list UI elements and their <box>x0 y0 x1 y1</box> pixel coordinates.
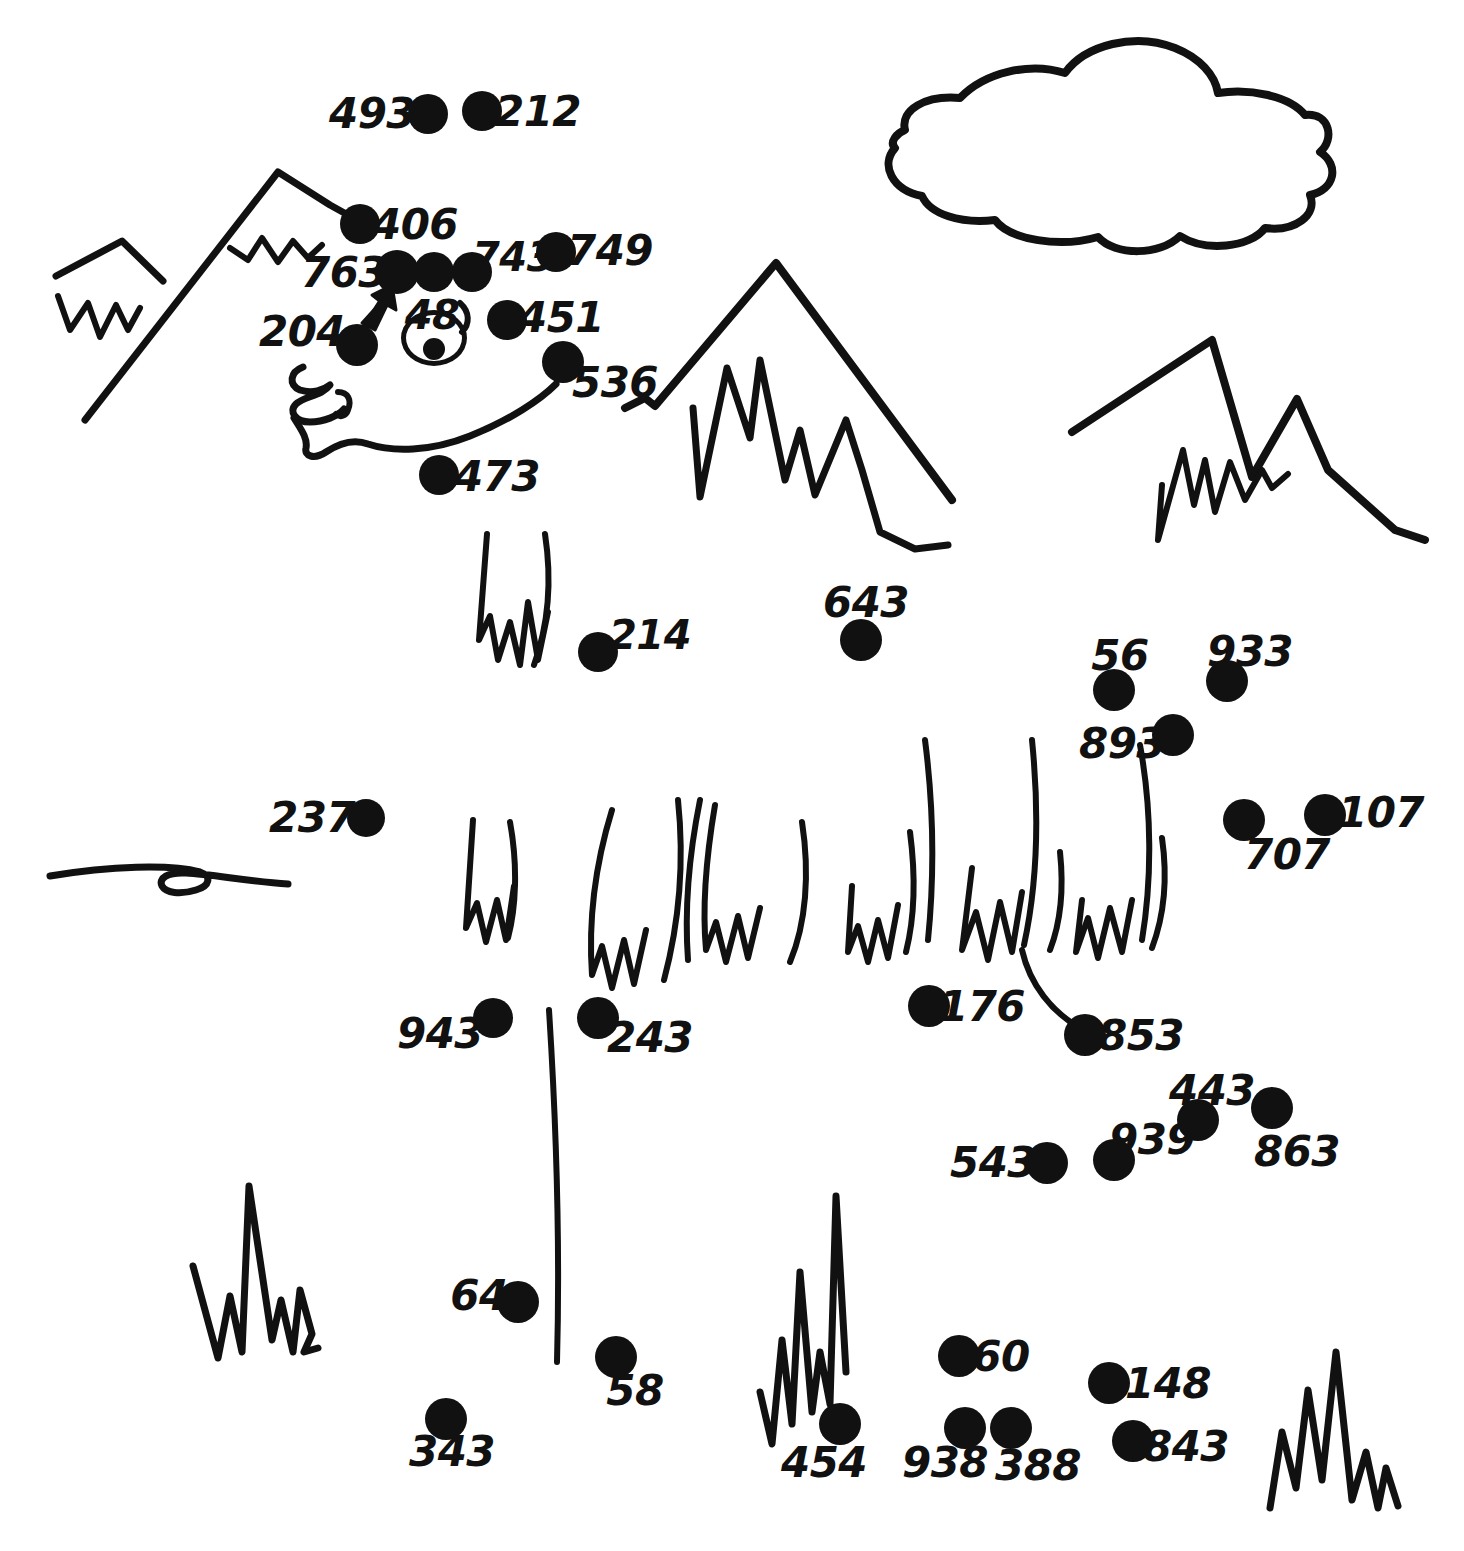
grass-tuft-mid-2 <box>466 820 515 942</box>
dot-number-label: 853 <box>1098 1015 1184 1057</box>
dot-number-label: 64 <box>450 1275 507 1317</box>
dot-marker[interactable] <box>414 252 454 292</box>
cloud-outline <box>889 41 1333 251</box>
dot-number-label: 204 <box>259 311 345 353</box>
scene-canvas: 4932124067497437634845120453647321464356… <box>0 0 1464 1551</box>
dot-number-label: 939 <box>1109 1119 1195 1161</box>
grass-tuft-mid-1 <box>479 534 548 665</box>
dot-number-label: 473 <box>454 456 540 498</box>
dot-number-label: 48 <box>405 295 460 335</box>
bird-beak <box>336 392 350 416</box>
dot-number-label: 107 <box>1338 792 1424 834</box>
mountain-right-snow <box>1158 450 1288 540</box>
dot-marker[interactable] <box>1251 1087 1293 1129</box>
dot-number-label: 707 <box>1244 834 1330 876</box>
grass-tuft-mid-6 <box>962 740 1062 960</box>
dot-number-label: 743 <box>472 237 554 277</box>
mountain-right <box>1072 340 1425 540</box>
dot-marker[interactable] <box>1088 1362 1130 1404</box>
dot-number-label: 454 <box>781 1442 867 1484</box>
dot-number-label: 212 <box>495 91 581 133</box>
grass-tuft-mid-7 <box>1076 745 1165 958</box>
dot-number-label: 237 <box>269 797 355 839</box>
dot-number-label: 536 <box>572 362 658 404</box>
dot-number-label: 943 <box>397 1013 483 1055</box>
grass-tuft-bottom-left <box>193 1186 318 1358</box>
dot-number-label: 443 <box>1169 1070 1255 1112</box>
dot-number-label: 543 <box>950 1142 1036 1184</box>
dot-number-label: 243 <box>607 1017 693 1059</box>
dot-number-label: 863 <box>1254 1131 1340 1173</box>
dot-number-label: 749 <box>567 230 653 272</box>
dot-number-label: 56 <box>1091 635 1148 677</box>
dot-number-label: 643 <box>823 582 909 624</box>
line-art-layer <box>0 0 1464 1551</box>
dot-number-label: 843 <box>1143 1426 1229 1468</box>
dot-number-label: 343 <box>409 1431 495 1473</box>
dot-number-label: 214 <box>609 615 691 655</box>
grass-blade-to-853 <box>1022 950 1080 1028</box>
mountain-center-snow <box>693 360 948 549</box>
wavy-path-line <box>50 867 288 893</box>
dot-number-label: 938 <box>902 1442 988 1484</box>
dot-number-label: 406 <box>372 204 458 246</box>
dot-number-label: 148 <box>1125 1363 1211 1405</box>
selection-ring-inner-dot <box>423 338 445 360</box>
dot-number-label: 60 <box>972 1336 1029 1378</box>
mountain-left-small <box>56 241 163 281</box>
dot-number-label: 388 <box>995 1445 1081 1487</box>
long-stem-line <box>549 1010 558 1362</box>
dot-number-label: 176 <box>939 986 1025 1028</box>
dot-number-label: 493 <box>329 93 415 135</box>
mountain-left-small-snow <box>58 296 140 337</box>
dot-number-label: 933 <box>1207 631 1293 673</box>
dot-number-label: 763 <box>301 252 387 294</box>
grass-tuft-bottom-right <box>1270 1352 1398 1508</box>
dot-number-label: 451 <box>518 297 604 339</box>
dot-number-label: 58 <box>606 1370 663 1412</box>
grass-tuft-mid-5 <box>848 740 932 962</box>
grass-tuft-mid-4 <box>704 805 806 962</box>
grass-tuft-mid-3 <box>591 800 700 988</box>
dot-number-label: 893 <box>1079 723 1165 765</box>
